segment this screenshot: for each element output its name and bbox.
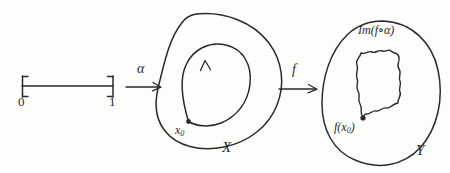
- map-label-alpha: α: [137, 62, 144, 76]
- basepoint-fx0-dot: [360, 115, 365, 120]
- basepoint-x0-label: x0: [175, 124, 184, 136]
- math-diagram: 0 1 α f x0 X Im(f∘α) f(x0) Y: [0, 0, 450, 173]
- f-arrow: [279, 85, 317, 93]
- unit-interval: [22, 76, 113, 97]
- image-curve-label: Im(f∘α): [358, 24, 394, 36]
- basepoint-fx0-label: f(x0): [334, 121, 355, 133]
- image-curve: [356, 50, 400, 117]
- map-label-f: f: [292, 63, 296, 77]
- space-y-label: Y: [416, 143, 424, 158]
- basepoint-x0-dot: [186, 119, 191, 124]
- interval-label-1: 1: [109, 95, 116, 108]
- loop-in-x: [182, 44, 250, 126]
- interval-label-0: 0: [18, 95, 25, 108]
- space-x-label: X: [222, 140, 231, 155]
- arrowhead-up-icon: [201, 61, 211, 71]
- alpha-arrow: [126, 83, 161, 91]
